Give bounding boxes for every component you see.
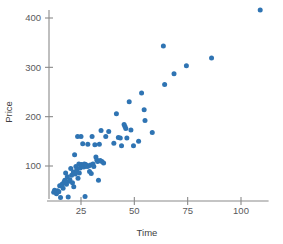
x-axis: 255075100 xyxy=(47,197,269,216)
y-tick-label: 100 xyxy=(25,160,41,171)
data-point xyxy=(96,178,101,183)
data-point xyxy=(128,127,133,132)
data-points-layer xyxy=(51,8,263,200)
data-point xyxy=(150,130,155,135)
data-point xyxy=(142,107,147,112)
scatter-plot-figure: 100200300400 255075100 Time Price xyxy=(0,0,283,244)
x-tick-label: 50 xyxy=(129,205,140,216)
data-point xyxy=(161,44,166,49)
data-point xyxy=(77,170,82,175)
data-point xyxy=(90,134,95,139)
data-point xyxy=(209,55,214,60)
data-point xyxy=(136,139,141,144)
x-tick-label: 100 xyxy=(233,205,249,216)
x-tick-label: 75 xyxy=(182,205,193,216)
y-tick-label: 300 xyxy=(25,62,41,73)
data-point xyxy=(56,189,61,194)
data-point xyxy=(61,186,66,191)
data-point xyxy=(99,128,104,133)
data-point xyxy=(106,129,111,134)
data-point xyxy=(103,134,108,139)
y-axis-title: Price xyxy=(3,101,14,123)
data-point xyxy=(111,141,116,146)
data-point xyxy=(66,195,71,200)
data-point xyxy=(91,164,96,169)
data-point xyxy=(114,111,119,116)
x-tick-label: 25 xyxy=(76,205,87,216)
data-point xyxy=(131,143,136,148)
data-point xyxy=(72,152,77,157)
data-point xyxy=(79,134,84,139)
data-point xyxy=(92,142,97,147)
data-point xyxy=(97,142,102,147)
plot-canvas: 100200300400 255075100 Time Price xyxy=(0,0,283,244)
data-point xyxy=(118,135,123,140)
data-point xyxy=(139,90,144,95)
data-point xyxy=(184,63,189,68)
data-point xyxy=(162,82,167,87)
data-point xyxy=(127,99,132,104)
data-point xyxy=(58,195,63,200)
data-point xyxy=(172,71,177,76)
data-point xyxy=(85,142,90,147)
data-point xyxy=(258,8,263,13)
data-point xyxy=(101,161,106,166)
data-point xyxy=(124,135,129,140)
y-axis: 100200300400 xyxy=(25,10,53,199)
y-tick-label: 200 xyxy=(25,111,41,122)
data-point xyxy=(83,194,88,199)
data-point xyxy=(143,118,148,123)
x-axis-title: Time xyxy=(137,227,158,238)
y-tick-label: 400 xyxy=(25,12,41,23)
data-point xyxy=(89,171,94,176)
data-point xyxy=(71,184,76,189)
data-point xyxy=(76,176,81,181)
data-point xyxy=(80,141,85,146)
data-point xyxy=(123,126,128,131)
data-point xyxy=(119,143,124,148)
